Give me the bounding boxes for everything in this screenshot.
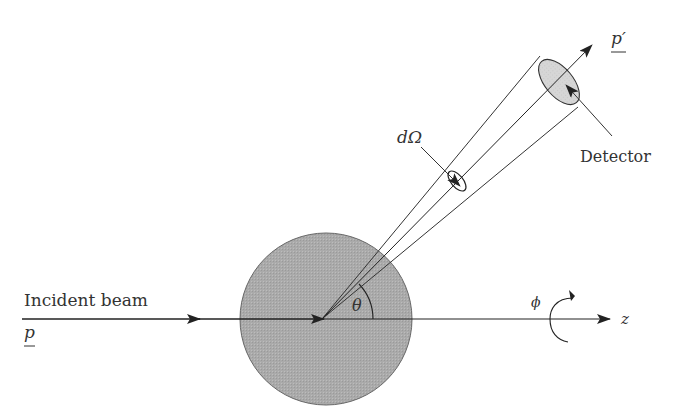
solid-angle-pointer [421, 147, 460, 186]
solid-angle-label: dΩ [397, 127, 422, 147]
cone-lower-edge [322, 107, 578, 319]
phi-label: ϕ [531, 294, 541, 310]
outgoing-momentum-label: p′ [611, 28, 626, 48]
detector-ellipse [531, 52, 587, 111]
phi-rotation-icon [550, 298, 573, 342]
incident-momentum-label: p [24, 322, 35, 342]
z-axis-label: z [620, 310, 629, 328]
phi-arrowhead [569, 290, 575, 301]
outgoing-momentum-arrow [322, 45, 592, 319]
theta-label: θ [352, 296, 362, 315]
scattering-diagram: Incident beam p p′ Detector dΩ θ ϕ z [0, 0, 685, 419]
detector-pointer [566, 85, 612, 136]
cone-upper-edge [322, 56, 540, 319]
incident-beam-label: Incident beam [24, 290, 148, 310]
detector-label: Detector [580, 147, 651, 166]
